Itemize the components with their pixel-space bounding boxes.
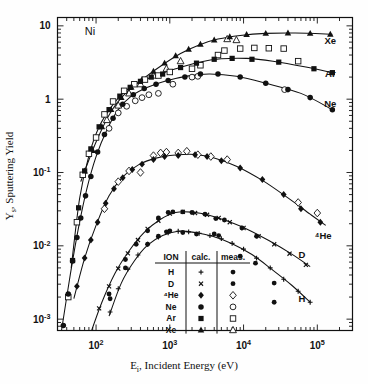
marker-filled-circle xyxy=(120,102,126,108)
marker-filled-circle xyxy=(194,232,199,237)
marker-filled-circle xyxy=(78,215,84,221)
marker-filled-square xyxy=(249,57,254,62)
marker-cross-x xyxy=(89,331,93,335)
marker-filled-circle xyxy=(108,296,113,301)
y-axis-title: Ys, Sputtering Yield xyxy=(3,131,18,220)
marker-filled-circle xyxy=(134,242,139,247)
y-tick-label: 10-2 xyxy=(33,239,51,252)
legend-ion-Xe: Xe xyxy=(166,325,177,335)
marker-open-square xyxy=(222,48,227,53)
marker-filled-circle xyxy=(222,218,227,223)
marker-open-circle xyxy=(146,92,152,98)
chart-canvas: 10210310410510110-110-210-3Ei, Incident … xyxy=(0,0,368,384)
curve-label-D: D xyxy=(299,249,306,260)
marker-open-square xyxy=(281,46,286,51)
marker-filled-circle xyxy=(131,92,137,98)
marker-open-circle xyxy=(132,98,138,104)
curve-label-H: H xyxy=(299,293,306,304)
legend-header-calc: calc. xyxy=(192,252,211,262)
marker-filled-square xyxy=(311,66,316,71)
x-tick-label: 102 xyxy=(88,338,103,351)
marker-open-triangle xyxy=(230,326,237,332)
marker-filled-diamond xyxy=(95,219,101,226)
marker-filled-circle xyxy=(231,270,236,275)
marker-filled-circle xyxy=(123,257,128,262)
marker-filled-triangle xyxy=(198,327,204,333)
plot-frame xyxy=(58,18,353,331)
marker-filled-diamond xyxy=(198,292,204,299)
marker-open-square xyxy=(102,112,107,117)
x-axis-title: Ei, Incident Energy (eV) xyxy=(130,359,238,374)
marker-filled-square xyxy=(212,57,217,62)
x-tick-label: 104 xyxy=(236,338,251,351)
marker-open-square xyxy=(110,99,115,104)
marker-filled-square xyxy=(117,94,122,99)
marker-filled-square xyxy=(128,85,133,90)
marker-filled-circle xyxy=(253,261,258,266)
legend-header-ion: ION xyxy=(163,252,178,262)
curve-label-Ne: Ne xyxy=(324,98,336,109)
marker-filled-diamond xyxy=(74,283,80,290)
marker-open-square xyxy=(189,66,194,71)
series-curve-4He xyxy=(74,154,326,298)
legend-ion-Ar: Ar xyxy=(166,313,176,323)
figure-sputtering-yield: 10210310410510110-110-210-3Ei, Incident … xyxy=(0,0,368,384)
marker-filled-circle xyxy=(95,149,101,155)
marker-filled-circle xyxy=(83,193,89,199)
legend-header-meas: meas. xyxy=(221,252,245,262)
legend-ion-H: H xyxy=(168,267,174,277)
marker-open-square xyxy=(86,151,91,156)
marker-filled-circle xyxy=(180,230,185,235)
marker-open-square xyxy=(167,69,172,74)
series-curve-Ar xyxy=(71,58,332,268)
series-curve-H xyxy=(109,231,310,316)
marker-filled-circle xyxy=(215,71,221,77)
marker-filled-circle xyxy=(66,291,72,297)
marker-open-square xyxy=(93,135,98,140)
marker-filled-circle xyxy=(182,74,188,80)
marker-open-diamond xyxy=(295,199,302,207)
marker-open-triangle xyxy=(233,36,240,42)
marker-filled-circle xyxy=(198,71,204,77)
marker-open-triangle xyxy=(177,57,184,63)
marker-filled-diamond xyxy=(218,157,224,164)
marker-open-circle xyxy=(155,90,161,96)
marker-filled-square xyxy=(149,74,154,79)
marker-filled-circle xyxy=(272,300,277,305)
legend-ion-⁴He: ⁴He xyxy=(163,290,178,300)
marker-filled-circle xyxy=(272,281,277,286)
curve-label-Ar: Ar xyxy=(325,68,336,79)
marker-filled-square xyxy=(106,107,111,112)
marker-filled-circle xyxy=(102,132,108,138)
marker-open-circle xyxy=(115,110,121,116)
marker-open-square xyxy=(121,88,126,93)
marker-filled-circle xyxy=(216,233,221,238)
marker-filled-circle xyxy=(141,86,147,92)
marker-filled-circle xyxy=(231,281,236,286)
marker-filled-circle xyxy=(107,292,112,297)
marker-filled-circle xyxy=(212,232,217,237)
curve-label-4He: ⁴He xyxy=(315,230,332,241)
marker-open-square xyxy=(266,46,271,51)
marker-filled-square xyxy=(88,146,93,151)
marker-cross-x xyxy=(89,331,93,335)
marker-filled-square xyxy=(194,61,199,66)
marker-filled-square xyxy=(82,168,87,173)
marker-filled-diamond xyxy=(88,237,94,244)
marker-open-diamond xyxy=(230,291,237,299)
marker-filled-diamond xyxy=(281,191,287,198)
marker-filled-circle xyxy=(110,115,116,121)
material-label: Ni xyxy=(85,25,95,37)
marker-filled-circle xyxy=(263,80,269,86)
marker-filled-square xyxy=(160,71,165,76)
legend-ion-D: D xyxy=(168,279,174,289)
marker-filled-square xyxy=(276,60,281,65)
marker-filled-circle xyxy=(61,323,67,329)
marker-filled-circle xyxy=(307,95,313,101)
marker-open-diamond xyxy=(224,156,231,164)
marker-filled-square xyxy=(138,79,143,84)
x-tick-label: 105 xyxy=(310,338,325,351)
marker-filled-circle xyxy=(70,258,76,264)
marker-open-circle xyxy=(106,125,112,131)
marker-open-circle xyxy=(139,95,145,101)
